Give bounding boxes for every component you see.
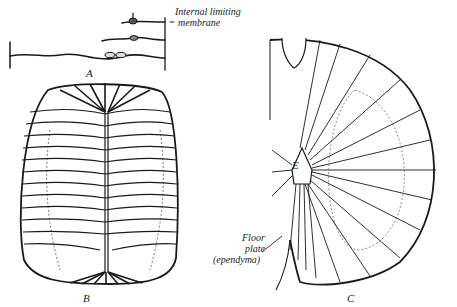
floor-plate-label-line2: plate: [245, 244, 265, 254]
panel-b-drawing: [21, 83, 178, 284]
panel-a-drawing: [10, 13, 174, 70]
internal-limiting-membrane-label-line1: Internal limiting: [175, 7, 241, 17]
panel-label-a: A: [86, 68, 93, 79]
panel-c-drawing: [262, 38, 436, 290]
internal-limiting-membrane-label-line2: membrane: [178, 18, 220, 28]
floor-plate-label-line3: (ependyma): [213, 255, 260, 265]
ependyma-marker-label: E: [292, 160, 299, 171]
floor-plate-label-line1: Floor: [242, 233, 265, 243]
panel-label-b: B: [83, 293, 90, 304]
panel-label-c: C: [347, 293, 354, 304]
